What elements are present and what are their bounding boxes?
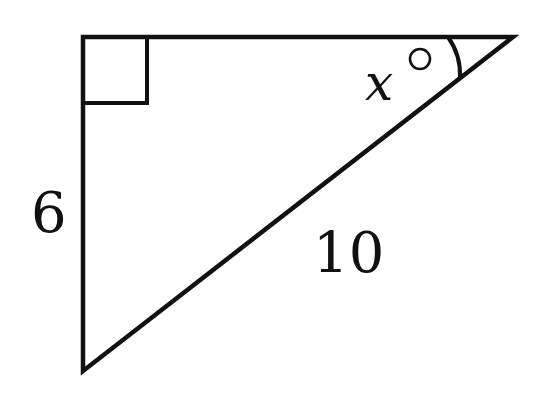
degree-symbol: [410, 49, 430, 69]
angle-arc: [448, 37, 460, 77]
angle-label-var: x: [365, 54, 393, 112]
hypotenuse-label: 10: [313, 220, 384, 285]
right-angle-marker: [83, 37, 147, 103]
triangle-diagram: x 6 10: [0, 0, 540, 395]
vertical-leg-label: 6: [31, 180, 67, 245]
